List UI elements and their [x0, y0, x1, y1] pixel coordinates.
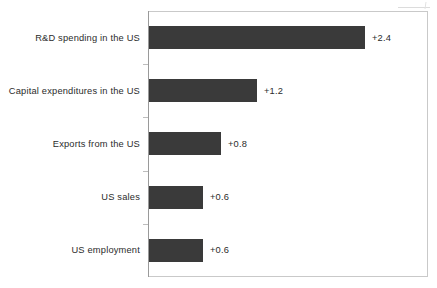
bar-value-label: +2.4 [372, 33, 391, 43]
bar [149, 186, 203, 209]
bar-rows: R&D spending in the US +2.4 Capital expe… [0, 11, 437, 277]
bar-row: US employment +0.6 [0, 224, 437, 277]
category-label: US sales [0, 192, 140, 202]
category-label: Capital expenditures in the US [0, 86, 140, 96]
bar-row: Capital expenditures in the US +1.2 [0, 64, 437, 117]
bar-value-label: +0.6 [210, 192, 229, 202]
bar-group: +0.6 [149, 239, 229, 262]
bar [149, 239, 203, 262]
bar-row: R&D spending in the US +2.4 [0, 11, 437, 64]
bar [149, 79, 257, 102]
bar [149, 132, 221, 155]
bar-group: +0.8 [149, 132, 247, 155]
bar-value-label: +0.8 [228, 139, 247, 149]
bar-row: US sales +0.6 [0, 171, 437, 224]
bar-group: +1.2 [149, 79, 283, 102]
bar-group: +2.4 [149, 26, 391, 49]
bar-value-label: +1.2 [264, 86, 283, 96]
bar [149, 26, 365, 49]
bar-value-label: +0.6 [210, 245, 229, 255]
category-label: US employment [0, 245, 140, 255]
bar-group: +0.6 [149, 186, 229, 209]
category-label: R&D spending in the US [0, 33, 140, 43]
category-label: Exports from the US [0, 139, 140, 149]
bar-row: Exports from the US +0.8 [0, 117, 437, 170]
bar-chart: R&D spending in the US +2.4 Capital expe… [0, 0, 437, 288]
